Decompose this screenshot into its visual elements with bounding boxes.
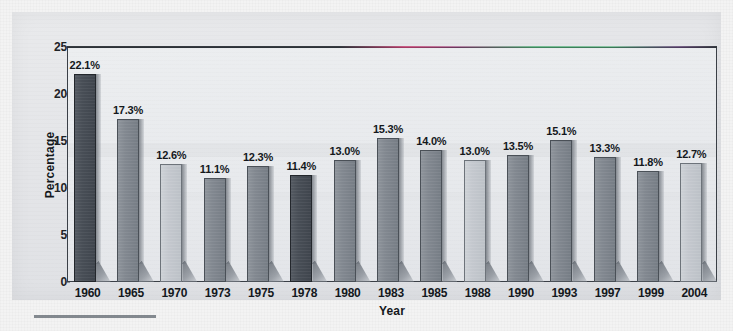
bar-face <box>550 140 572 282</box>
x-tick-label: 1990 <box>508 286 534 300</box>
bar-slot: 13.3% <box>594 47 632 282</box>
bar-face <box>334 160 356 282</box>
bar-value-label: 12.3% <box>243 151 273 163</box>
bar-value-label: 13.5% <box>503 140 533 152</box>
bar[interactable]: 11.8% <box>637 171 659 282</box>
bar[interactable]: 17.3% <box>117 119 139 282</box>
bar[interactable]: 12.7% <box>680 163 702 282</box>
x-tick-label: 1983 <box>378 286 404 300</box>
bar-slot: 12.6% <box>160 47 198 282</box>
bar-face <box>247 166 269 282</box>
x-tick-label: 1973 <box>205 286 231 300</box>
bar[interactable]: 12.6% <box>160 164 182 282</box>
bar-value-label: 15.3% <box>373 123 403 135</box>
bar-shadow-stem <box>96 74 101 264</box>
x-tick-label: 1988 <box>465 286 491 300</box>
bar-slot: 11.4% <box>290 47 328 282</box>
bar-face <box>680 163 702 282</box>
bar-value-label: 12.7% <box>676 148 706 160</box>
bar-slot: 22.1% <box>74 47 112 282</box>
bar[interactable]: 15.3% <box>377 138 399 282</box>
bar-slot: 11.8% <box>637 47 675 282</box>
y-axis-title: Percentage <box>43 105 57 225</box>
bar[interactable]: 22.1% <box>74 74 96 282</box>
bar-face <box>507 155 529 282</box>
scan-artifact-mark <box>34 315 156 318</box>
x-tick-label: 1960 <box>75 286 101 300</box>
bar[interactable]: 13.0% <box>334 160 356 282</box>
bar[interactable]: 12.3% <box>247 166 269 282</box>
bar-slot: 13.0% <box>334 47 372 282</box>
bar-shadow-stem <box>616 157 621 264</box>
x-tick-label: 1978 <box>291 286 317 300</box>
bar[interactable]: 13.5% <box>507 155 529 282</box>
bar-shadow-stem <box>139 119 144 264</box>
bar-slot: 15.1% <box>550 47 588 282</box>
bar[interactable]: 14.0% <box>420 150 442 282</box>
bar-shadow-stem <box>486 160 491 264</box>
bar-shadow-stem <box>312 175 317 264</box>
bar-value-label: 11.8% <box>633 156 663 168</box>
bar-face <box>117 119 139 282</box>
bar-value-label: 15.1% <box>546 125 576 137</box>
bar-value-label: 11.4% <box>287 160 317 172</box>
bar-shadow-stem <box>182 164 187 264</box>
bar-shadow-stem <box>702 163 707 264</box>
figure-frame: 0510152025 Percentage 22.1%17.3%12.6%11.… <box>12 12 721 300</box>
bar-slot: 13.0% <box>464 47 502 282</box>
bar-value-label: 11.1% <box>200 163 230 175</box>
x-tick-label: 1993 <box>551 286 577 300</box>
bar-slot: 12.3% <box>247 47 285 282</box>
bar-value-label: 22.1% <box>70 59 100 71</box>
bar-shadow-stem <box>442 150 447 264</box>
bar-value-label: 12.6% <box>156 149 186 161</box>
x-tick-label: 1997 <box>595 286 621 300</box>
bar-value-label: 17.3% <box>113 104 143 116</box>
bar-value-label: 13.0% <box>330 145 360 157</box>
bar-shadow-stem <box>659 171 664 264</box>
bar-slot: 15.3% <box>377 47 415 282</box>
bar-slot: 14.0% <box>420 47 458 282</box>
bar-slot: 17.3% <box>117 47 155 282</box>
bar-shadow-stem <box>529 155 534 264</box>
bar-shadow-stem <box>356 160 361 264</box>
bar-value-label: 13.3% <box>590 142 620 154</box>
bar-face <box>204 178 226 282</box>
bar[interactable]: 15.1% <box>550 140 572 282</box>
x-axis-tick-labels: 1960196519701973197519781980198319851988… <box>67 286 717 304</box>
bar[interactable]: 11.1% <box>204 178 226 282</box>
bar-shadow-stem <box>572 140 577 264</box>
bar-face <box>74 74 96 282</box>
bar-value-label: 13.0% <box>460 145 490 157</box>
chart-screenshot: 0510152025 Percentage 22.1%17.3%12.6%11.… <box>0 0 733 331</box>
bar-face <box>420 150 442 282</box>
y-axis-title-wrap: Percentage <box>26 47 50 282</box>
bar-face <box>290 175 312 282</box>
bar-shadow-stem <box>269 166 274 264</box>
x-tick-label: 1980 <box>335 286 361 300</box>
x-tick-label: 1965 <box>118 286 144 300</box>
bar-series: 22.1%17.3%12.6%11.1%12.3%11.4%13.0%15.3%… <box>67 47 717 282</box>
x-tick-label: 2004 <box>681 286 707 300</box>
bar-slot: 12.7% <box>680 47 718 282</box>
bar-face <box>637 171 659 282</box>
bar[interactable]: 13.3% <box>594 157 616 282</box>
bar-shadow-stem <box>226 178 231 264</box>
x-tick-label: 1999 <box>638 286 664 300</box>
bar-shadow-stem <box>399 138 404 264</box>
x-tick-label: 1985 <box>421 286 447 300</box>
x-tick-label: 1975 <box>248 286 274 300</box>
bar-slot: 13.5% <box>507 47 545 282</box>
bar-face <box>377 138 399 282</box>
bar-value-label: 14.0% <box>416 135 446 147</box>
bar-face <box>464 160 486 282</box>
bar-slot: 11.1% <box>204 47 242 282</box>
x-tick-label: 1970 <box>161 286 187 300</box>
bar-face <box>160 164 182 282</box>
bar-face <box>594 157 616 282</box>
bar[interactable]: 11.4% <box>290 175 312 282</box>
bar[interactable]: 13.0% <box>464 160 486 282</box>
x-axis-title: Year <box>67 304 717 318</box>
